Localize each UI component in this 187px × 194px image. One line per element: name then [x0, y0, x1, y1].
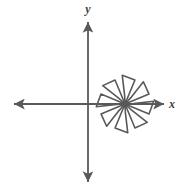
pinwheel-center-point [123, 102, 127, 106]
pinwheel-blade [101, 104, 125, 126]
pinwheel-blade [125, 104, 147, 128]
pinwheel-blade [125, 82, 149, 104]
y-axis-label: y [83, 2, 91, 16]
pinwheel-blade [103, 80, 125, 104]
x-axis-label: x [168, 97, 175, 111]
figure-container: x y [0, 0, 187, 194]
coordinate-plane-figure: x y [0, 0, 187, 194]
